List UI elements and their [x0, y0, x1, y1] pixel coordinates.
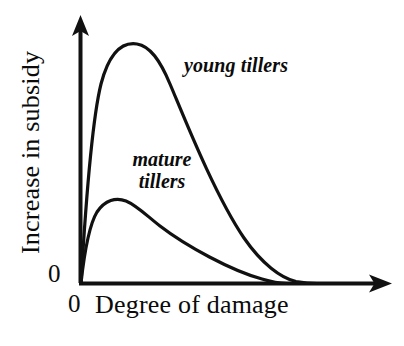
series-label-mature-tillers-line1: mature	[133, 148, 192, 170]
y-axis-zero-tick-label: 0	[48, 261, 61, 286]
x-axis-zero-tick-label: 0	[68, 291, 81, 316]
series-curve-mature-tillers	[81, 199, 287, 283]
chart-figure: Increase in subsidy Degree of damage 0 0…	[0, 0, 404, 346]
y-axis-title: Increase in subsidy	[18, 24, 46, 254]
series-label-mature-tillers: maturetillers	[120, 148, 204, 193]
series-label-mature-tillers-line2: tillers	[120, 170, 204, 192]
x-axis-title: Degree of damage	[95, 292, 289, 318]
series-label-young-tillers: young tillers	[184, 54, 288, 76]
